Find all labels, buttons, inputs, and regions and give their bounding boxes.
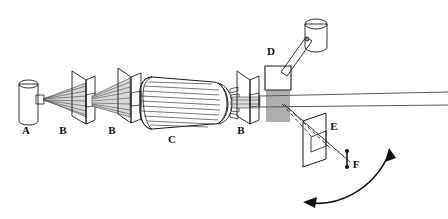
label-collimator-1: B [59,124,67,136]
beam-fan-2 [92,78,130,117]
label-collimator-2: B [108,124,116,136]
detector-plate-face [303,113,326,167]
source-oven-body [19,84,38,125]
diffracted-ray-paths [282,104,350,162]
swing-arrowhead-upper [385,148,396,162]
detector-plate-assembly [303,113,326,167]
source-oven-assembly [19,80,44,125]
label-selector-drum: C [168,133,176,145]
drum-helical-slots [141,82,220,127]
diagram-canvas: A B B C B D E F [0,0,448,219]
grating-housing-box [265,66,291,90]
apparatus-diagram: A B B C B D E F [0,0,448,219]
label-collimator-3: B [237,124,245,136]
source-nozzle [36,95,44,104]
rotating-slotted-drum-assembly [140,77,240,129]
detector-swing-arrow [303,148,396,208]
beam-segment-slit1-to-slit2 [92,78,130,117]
label-detector-plate: E [330,120,337,132]
drive-arm-pivot [305,37,309,41]
label-source: A [22,124,30,136]
drive-arm [281,37,312,76]
label-detector-point: F [353,158,360,170]
label-grating-housing: D [267,45,275,57]
detector-point-top-dot [345,149,349,153]
beam-segment-source-to-slit1 [43,83,86,117]
detector-point-bottom-dot [345,165,349,169]
detector-point-marker [345,149,349,169]
swing-arrowhead-lower [303,197,317,208]
